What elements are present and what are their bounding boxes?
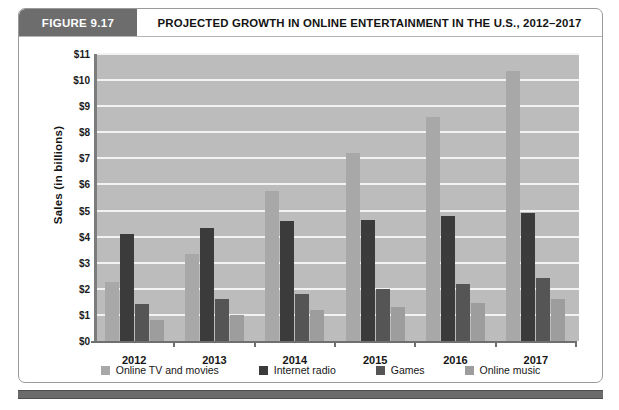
chart-body: Sales (in billions) $0$1$2$3$4$5$6$7$8$9… [19, 37, 602, 382]
legend-item[interactable]: Games [376, 364, 425, 376]
y-axis-tick-label: $9 [79, 101, 90, 112]
legend-label: Online music [480, 364, 541, 376]
bar [105, 282, 119, 341]
y-axis-tick-label: $2 [79, 283, 90, 294]
figure-header: FIGURE 9.17 PROJECTED GROWTH IN ONLINE E… [19, 9, 602, 37]
bar-group: 2014 [255, 54, 335, 341]
y-axis-tick-label: $3 [79, 257, 90, 268]
y-axis-title: Sales (in billions) [52, 110, 64, 240]
bar [346, 153, 360, 341]
legend-label: Internet radio [274, 364, 336, 376]
x-axis-tick [254, 341, 256, 347]
y-axis-tick-label: $7 [79, 153, 90, 164]
figure-container: FIGURE 9.17 PROJECTED GROWTH IN ONLINE E… [0, 0, 619, 410]
bottom-rule [18, 390, 603, 399]
bar [536, 278, 550, 341]
bar [215, 299, 229, 341]
bar [376, 289, 390, 341]
x-axis-tick [414, 341, 416, 347]
x-axis-tick [173, 341, 175, 347]
bar [295, 294, 309, 341]
y-axis-tick-label: $11 [74, 49, 90, 60]
legend-item[interactable]: Internet radio [259, 364, 336, 376]
x-axis-tick [575, 341, 577, 347]
bar [551, 299, 565, 341]
bar [391, 307, 405, 341]
figure-frame: FIGURE 9.17 PROJECTED GROWTH IN ONLINE E… [18, 8, 603, 383]
legend-swatch-icon [465, 366, 474, 375]
bar [441, 216, 455, 341]
chart-legend: Online TV and moviesInternet radioGamesO… [19, 364, 602, 376]
legend-label: Games [391, 364, 425, 376]
bar-group: 2015 [335, 54, 415, 341]
bar-group: 2012 [94, 54, 174, 341]
y-axis-tick-label: $0 [79, 336, 90, 347]
bar [150, 320, 164, 341]
bar [120, 234, 134, 341]
bar [230, 315, 244, 341]
bar [471, 303, 485, 341]
legend-swatch-icon [101, 366, 110, 375]
bar [521, 213, 535, 341]
y-axis-tick-label: $4 [79, 231, 90, 242]
bar [426, 117, 440, 341]
bar [200, 228, 214, 341]
x-axis-tick [334, 341, 336, 347]
legend-item[interactable]: Online TV and movies [101, 364, 219, 376]
x-axis-tick [495, 341, 497, 347]
figure-title: PROJECTED GROWTH IN ONLINE ENTERTAINMENT… [137, 9, 602, 36]
y-axis-tick-label: $6 [79, 179, 90, 190]
legend-swatch-icon [376, 366, 385, 375]
y-axis-tick-label: $5 [79, 205, 90, 216]
bar [265, 191, 279, 341]
bar-group: 2016 [415, 54, 495, 341]
bar [506, 71, 520, 341]
bar [456, 284, 470, 341]
y-axis-tick-label: $1 [79, 309, 90, 320]
bar-group: 2013 [174, 54, 254, 341]
y-axis-tick-label: $10 [73, 75, 90, 86]
legend-label: Online TV and movies [116, 364, 219, 376]
bar [185, 254, 199, 341]
bar [135, 304, 149, 341]
bar-group: 2017 [496, 54, 576, 341]
bar [361, 220, 375, 341]
bar-groups: 201220132014201520162017 [94, 54, 576, 341]
bar [310, 310, 324, 341]
legend-swatch-icon [259, 366, 268, 375]
legend-item[interactable]: Online music [465, 364, 541, 376]
figure-number-badge: FIGURE 9.17 [19, 9, 137, 36]
y-axis-tick-label: $8 [79, 127, 90, 138]
bar [280, 221, 294, 341]
